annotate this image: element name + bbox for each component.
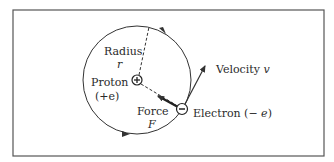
force-symbol: F (147, 118, 156, 131)
proton-charge: (+e) (95, 90, 119, 103)
proton-label: Proton (91, 76, 128, 89)
radius-label: Radius (104, 45, 143, 58)
electron-label: Electron (− e) (193, 107, 272, 120)
velocity-label: Velocity v (215, 63, 270, 76)
force-label: Force (137, 105, 169, 118)
velocity-arrow (185, 66, 205, 104)
bohr-atom-diagram: Radius r Proton (+e) Force F Velocity v … (0, 0, 334, 162)
radius-symbol: r (117, 58, 123, 71)
frame (13, 10, 324, 156)
orbit-arrow-bottom-icon (122, 131, 130, 137)
